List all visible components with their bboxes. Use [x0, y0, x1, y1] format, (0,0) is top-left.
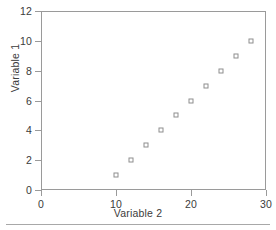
bottom-divider [6, 224, 270, 225]
y-axis-tick-mark [35, 71, 41, 72]
y-axis-tick-label: 12 [20, 5, 32, 17]
x-axis-tick-mark [266, 190, 267, 196]
y-axis-tick-label: 2 [26, 154, 32, 166]
y-axis-tick-label: 10 [20, 35, 32, 47]
y-axis-tick-mark [35, 11, 41, 12]
y-axis-tick-mark [35, 160, 41, 161]
x-axis-tick-mark [191, 190, 192, 196]
y-axis-tick-mark [35, 130, 41, 131]
plot-area-frame [41, 11, 266, 190]
scatter-plot-figure: 024681012 0102030 Variable 2 Variable 1 [0, 0, 276, 230]
x-axis-title: Variable 2 [0, 207, 276, 219]
x-axis-tick-mark [41, 190, 42, 196]
x-axis-tick-mark [116, 190, 117, 196]
y-axis-tick-label: 8 [26, 65, 32, 77]
y-axis-tick-mark [35, 41, 41, 42]
y-axis-tick-label: 6 [26, 95, 32, 107]
y-axis-tick-mark [35, 101, 41, 102]
y-axis-tick-label: 4 [26, 124, 32, 136]
y-axis-title: Variable 1 [9, 21, 21, 115]
